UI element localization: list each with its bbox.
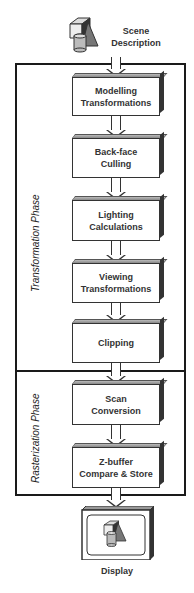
stage-line2: Transformations	[81, 283, 152, 295]
stage-line1: Z-buffer	[99, 456, 133, 468]
scene-description-label: Scene Description	[106, 25, 166, 49]
stage-line1: Clipping	[98, 337, 134, 349]
stage-clipping: Clipping	[72, 323, 160, 363]
arrow-down-icon	[106, 488, 126, 508]
stage-line2: Transformations	[81, 97, 152, 109]
stage-line1: Lighting	[98, 209, 134, 221]
stage-line1: Modelling	[95, 85, 137, 97]
stage-z-buffer-compare-store: Z-buffer Compare & Store	[72, 447, 160, 488]
stage-line2: Compare & Store	[79, 468, 153, 480]
rasterization-phase-label: Rasterization Phase	[30, 394, 41, 484]
stage-line2: Culling	[101, 158, 132, 170]
stage-line1: Viewing	[99, 271, 133, 283]
scene-label-line2: Description	[106, 37, 166, 49]
stage-scan-conversion: Scan Conversion	[72, 384, 160, 425]
stage-lighting-calculations: Lighting Calculations	[72, 200, 160, 241]
stage-line1: Back-face	[95, 146, 138, 158]
stage-back-face-culling: Back-face Culling	[72, 138, 160, 178]
display-label: Display	[82, 565, 152, 577]
display-monitor-icon	[80, 506, 154, 560]
stage-modelling-transformations: Modelling Transformations	[72, 77, 160, 116]
stage-line1: Scan	[105, 393, 127, 405]
stage-viewing-transformations: Viewing Transformations	[72, 263, 160, 303]
scene-objects-icon	[66, 16, 100, 54]
scene-label-line1: Scene	[106, 25, 166, 37]
transformation-phase-label: Transformation Phase	[30, 194, 41, 292]
stage-line2: Calculations	[89, 221, 143, 233]
stage-line2: Conversion	[91, 405, 141, 417]
